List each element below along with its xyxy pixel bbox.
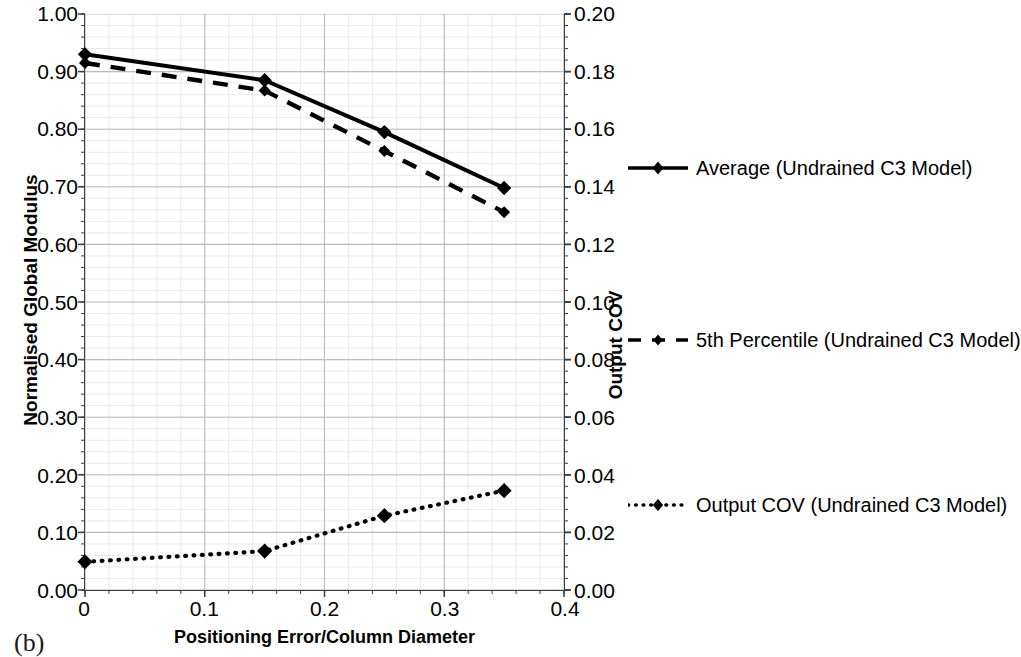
legend-swatch-solid-line-icon xyxy=(628,157,688,179)
y-axis-left-tick-0.80: 0.80 xyxy=(4,118,78,139)
legend-entry-5th-percentile[interactable]: 5th Percentile (Undrained C3 Model) xyxy=(628,325,1021,355)
data-point-marker xyxy=(497,181,511,195)
y-axis-right-title: Output COV xyxy=(605,265,627,425)
data-point-marker xyxy=(377,508,392,523)
x-axis-tick-0: 0 xyxy=(54,598,114,619)
chart-legend: Average (Undrained C3 Model) 5th Percent… xyxy=(628,0,1015,657)
x-axis-tick-0.2: 0.2 xyxy=(295,598,355,619)
data-point-marker xyxy=(257,544,272,559)
series-2 xyxy=(77,483,511,569)
legend-entry-average[interactable]: Average (Undrained C3 Model) xyxy=(628,153,972,183)
x-axis-tick-0.1: 0.1 xyxy=(174,598,234,619)
x-axis-tick-0.4: 0.4 xyxy=(535,598,595,619)
legend-entry-output-cov[interactable]: Output COV (Undrained C3 Model) xyxy=(628,490,1007,520)
series-0 xyxy=(78,47,511,195)
legend-label-average: Average (Undrained C3 Model) xyxy=(696,157,972,179)
data-point-marker xyxy=(77,554,92,569)
legend-label-5th-percentile: 5th Percentile (Undrained C3 Model) xyxy=(696,329,1021,351)
legend-swatch-dashed-line-icon xyxy=(628,329,688,351)
panel-caption: (b) xyxy=(14,628,44,657)
series-1 xyxy=(79,57,510,218)
data-point-marker xyxy=(79,57,91,69)
x-axis-tick-labels: 00.10.20.30.4 xyxy=(0,598,660,628)
y-axis-left-title: Normalised Global Modulus xyxy=(20,150,42,450)
x-axis-title: Positioning Error/Column Diameter xyxy=(84,627,565,648)
legend-swatch-dotted-line-icon xyxy=(628,494,688,516)
data-series-layer xyxy=(85,14,564,590)
data-point-marker xyxy=(497,483,512,498)
y-axis-left-tick-0.20: 0.20 xyxy=(4,465,78,486)
x-axis-tick-0.3: 0.3 xyxy=(415,598,475,619)
y-axis-left-tick-1.00: 1.00 xyxy=(4,3,78,24)
plot-area xyxy=(84,14,565,591)
y-axis-left-tick-0.10: 0.10 xyxy=(4,522,78,543)
y-axis-left-tick-0.90: 0.90 xyxy=(4,61,78,82)
data-point-marker xyxy=(377,125,391,139)
legend-label-output-cov: Output COV (Undrained C3 Model) xyxy=(696,494,1007,516)
